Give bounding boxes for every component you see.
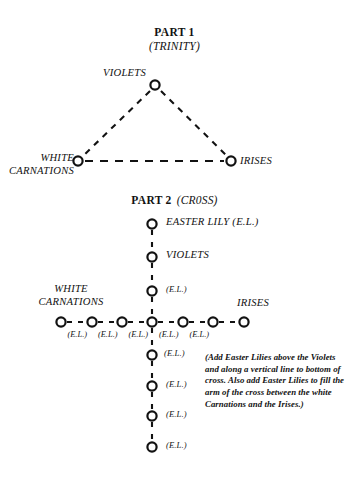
node-el-lower-4 (147, 442, 156, 451)
node-easter-lily (147, 219, 156, 228)
edge-violets-to-irises (161, 91, 226, 155)
edge-violets-to-white-carnations (84, 91, 150, 155)
arm-el-label: (E.L.) (123, 330, 154, 339)
arm-el-label: (E.L.) (154, 330, 185, 339)
node-white-carnations-part2 (56, 317, 65, 326)
node-violets-part2 (147, 252, 156, 261)
node-el-lower-1 (147, 350, 156, 359)
label-white-carnations-part1: WHITE CARNATIONS (8, 152, 74, 177)
label-white-carnations-part2: WHITE CARNATIONS (24, 283, 118, 308)
node-white-carnations-part1 (73, 156, 82, 165)
part2-heading: PART 2(CR0SS) (0, 190, 349, 207)
label-easter-lily: EASTER LILY (E.L.) (166, 216, 259, 227)
arm-el-label: (E.L.) (62, 330, 93, 339)
label-el-lower-1: (E.L.) (164, 349, 185, 358)
part1-subheading: (TRINITY) (0, 36, 349, 53)
label-white-carnations-part1-line1: WHITE (8, 152, 74, 165)
node-arm-el-2 (117, 317, 126, 326)
node-el-lower-3 (147, 411, 156, 420)
node-arm-el-5 (208, 317, 217, 326)
label-irises-part1: IRISES (240, 155, 272, 166)
instruction-note: (Add Easter Lilies above the Violets and… (205, 352, 345, 410)
label-violets-part2: VIOLETS (166, 249, 209, 260)
arm-el-label: (E.L.) (93, 330, 124, 339)
label-el-lower-3: (E.L.) (166, 410, 187, 419)
part2-title-text: PART 2 (131, 194, 171, 206)
label-white-carnations-part2-line2: CARNATIONS (24, 296, 118, 309)
node-cross-center (147, 317, 156, 326)
label-el-lower-4: (E.L.) (166, 441, 187, 450)
label-white-carnations-part1-line2: CARNATIONS (8, 165, 74, 178)
arm-el-label-row: (E.L.)(E.L.)(E.L.)(E.L.)(E.L.) (62, 330, 215, 339)
label-irises-part2: IRISES (237, 297, 269, 308)
label-violets-part1: VIOLETS (103, 67, 146, 78)
label-el-upper: (E.L.) (166, 285, 187, 294)
arm-el-label: (E.L.) (184, 330, 215, 339)
part2-subtitle-text: (CR0SS) (177, 194, 218, 206)
node-irises-part1 (226, 156, 235, 165)
node-el-lower-2 (147, 381, 156, 390)
part1-subtitle-text: (TRINITY) (149, 40, 200, 52)
node-el-upper (147, 286, 156, 295)
label-el-lower-2: (E.L.) (166, 380, 187, 389)
node-irises-part2 (239, 317, 248, 326)
flower-arrangement-diagram: PART 1 (TRINITY) VIOLETS WHITE CARNATION… (0, 0, 349, 483)
node-violets-part1 (150, 80, 159, 89)
node-arm-el-1 (87, 317, 96, 326)
label-white-carnations-part2-line1: WHITE (24, 283, 118, 296)
node-arm-el-4 (178, 317, 187, 326)
